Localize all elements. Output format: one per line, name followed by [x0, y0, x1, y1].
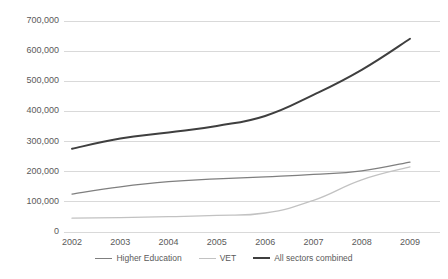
legend-label: Higher Education [116, 253, 181, 263]
legend-label: All sectors combined [274, 253, 352, 263]
x-axis-tick-label: 2004 [144, 237, 194, 247]
line-chart: 0100,000200,000300,000400,000500,000600,… [0, 0, 448, 279]
y-axis-tick-label: 600,000 [26, 45, 59, 55]
x-axis-tick-label: 2005 [192, 237, 242, 247]
legend-item-all-sectors-combined[interactable]: All sectors combined [253, 253, 352, 263]
legend-label: VET [220, 253, 237, 263]
y-axis-tick-label: 400,000 [26, 105, 59, 115]
x-axis-tick-label: 2007 [288, 237, 338, 247]
y-axis-tick-label: 500,000 [26, 75, 59, 85]
y-axis-tick-label: 100,000 [26, 196, 59, 206]
legend-item-higher-education[interactable]: Higher Education [95, 253, 181, 263]
x-axis-tick-label: 2009 [385, 237, 435, 247]
series-line-higher-education [72, 162, 410, 194]
series-lines [72, 39, 410, 218]
gridlines [64, 21, 440, 232]
x-axis-tick-label: 2006 [240, 237, 290, 247]
legend-swatch-line-icon [199, 258, 216, 259]
x-axis-tick-label: 2002 [47, 237, 97, 247]
legend-swatch-line-icon [95, 258, 112, 259]
y-axis-tick-label: 300,000 [26, 136, 59, 146]
y-axis-tick-label: 0 [54, 226, 59, 236]
x-axis-tick-label: 2003 [95, 237, 145, 247]
legend-item-vet[interactable]: VET [199, 253, 237, 263]
series-line-vet [72, 167, 410, 218]
x-axis-tick-label: 2008 [337, 237, 387, 247]
legend-swatch-line-icon [253, 257, 270, 259]
y-axis-tick-label: 700,000 [26, 15, 59, 25]
chart-legend: Higher EducationVETAll sectors combined [0, 253, 448, 263]
y-axis-tick-label: 200,000 [26, 166, 59, 176]
series-line-all-sectors-combined [72, 39, 410, 149]
